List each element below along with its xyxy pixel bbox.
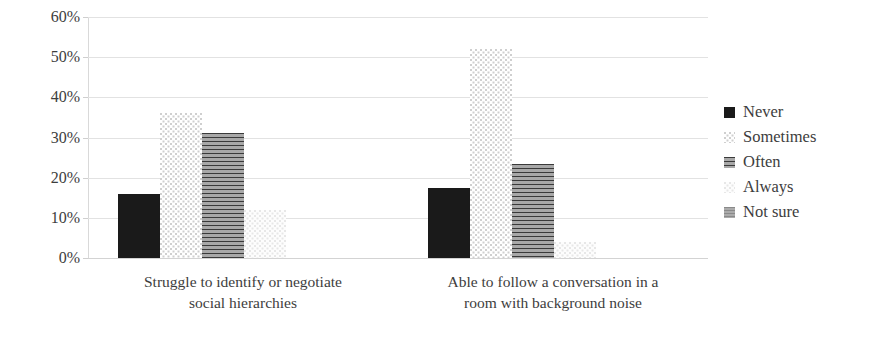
- category-label-line: Able to follow a conversation in a: [398, 272, 708, 293]
- bar: [202, 133, 244, 258]
- y-axis-tick-label: 0%: [8, 250, 80, 266]
- legend-item-often[interactable]: Often: [724, 150, 884, 175]
- bar: [244, 210, 286, 258]
- x-axis-category-label: Struggle to identify or negotiatesocial …: [88, 272, 398, 314]
- legend-swatch-icon: [724, 207, 735, 218]
- y-axis-tick-mark: [83, 218, 88, 219]
- legend-swatch-icon: [724, 157, 735, 168]
- y-axis-tick-mark: [83, 178, 88, 179]
- bar: [428, 188, 470, 258]
- chart-legend: NeverSometimesOftenAlwaysNot sure: [724, 100, 884, 225]
- bar: [470, 49, 512, 258]
- y-axis-tick-label: 20%: [8, 170, 80, 186]
- bar-chart: 60%50%40%30%20%10%0% Struggle to identif…: [0, 0, 892, 339]
- y-axis-tick-labels: 60%50%40%30%20%10%0%: [8, 0, 80, 339]
- y-axis-tick-label: 10%: [8, 210, 80, 226]
- y-axis-tick-label: 60%: [8, 9, 80, 25]
- legend-item-label: Not sure: [743, 204, 799, 221]
- legend-swatch-icon: [724, 132, 735, 143]
- x-axis-category-label: Able to follow a conversation in aroom w…: [398, 272, 708, 314]
- plot-area: [88, 17, 708, 258]
- legend-item-label: Always: [743, 179, 793, 196]
- y-axis-tick-mark: [83, 138, 88, 139]
- bar: [512, 164, 554, 258]
- y-axis-tick-mark: [83, 57, 88, 58]
- gridline: [88, 57, 708, 58]
- y-axis-tick-mark: [83, 17, 88, 18]
- y-axis-tick-label: 50%: [8, 49, 80, 65]
- bar: [554, 242, 596, 258]
- category-label-line: room with background noise: [398, 293, 708, 314]
- legend-item-never[interactable]: Never: [724, 100, 884, 125]
- y-axis-tick-label: 40%: [8, 89, 80, 105]
- category-label-line: Struggle to identify or negotiate: [88, 272, 398, 293]
- y-axis-tick-mark: [83, 97, 88, 98]
- legend-swatch-icon: [724, 107, 735, 118]
- gridline: [88, 97, 708, 98]
- bar: [160, 113, 202, 258]
- category-label-line: social hierarchies: [88, 293, 398, 314]
- legend-item-label: Sometimes: [743, 129, 816, 146]
- y-axis-tick-mark: [83, 258, 88, 259]
- legend-item-label: Never: [743, 104, 783, 121]
- legend-item-sometimes[interactable]: Sometimes: [724, 125, 884, 150]
- legend-item-always[interactable]: Always: [724, 175, 884, 200]
- gridline: [88, 17, 708, 18]
- legend-item-label: Often: [743, 154, 781, 171]
- axis-baseline: [88, 258, 708, 259]
- legend-swatch-icon: [724, 182, 735, 193]
- y-axis-tick-label: 30%: [8, 130, 80, 146]
- bar: [118, 194, 160, 258]
- legend-item-not-sure[interactable]: Not sure: [724, 200, 884, 225]
